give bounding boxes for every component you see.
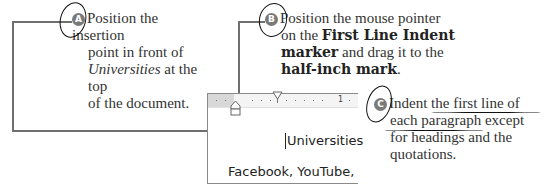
document-preview: 1 Universities Facebook, YouTube,	[207, 93, 358, 184]
ruler-tick	[216, 100, 217, 101]
ruler-tick	[270, 100, 271, 101]
handwritten-underline-each-paragraph	[384, 130, 484, 131]
insertion-cursor	[285, 133, 286, 149]
ruler-tick	[252, 100, 253, 101]
ruler-tick	[295, 100, 296, 101]
callout-a-line-2: point in front of	[72, 44, 212, 61]
ruler-tick	[349, 100, 350, 101]
ruler-tick	[313, 100, 314, 101]
callout-a-line-1: APosition the insertion	[72, 10, 212, 44]
ruler-number: 1	[338, 95, 343, 104]
document-line-facebook: Facebook, YouTube,	[228, 164, 354, 179]
ruler-tick	[261, 100, 262, 101]
callout-b-line-1: BPosition the mouse pointer	[265, 10, 465, 27]
callout-b-line-2: on the First Line Indent	[265, 27, 465, 44]
ruler-tick	[225, 100, 226, 101]
leader-line-b-vertical	[238, 21, 240, 99]
ruler-tick	[322, 100, 323, 101]
callout-a: APosition the insertion point in front o…	[72, 10, 212, 112]
callout-b-line-3: marker and drag it to the	[265, 44, 465, 61]
callout-c-line-1: CIndent the first line of	[374, 95, 544, 112]
callout-b: BPosition the mouse pointer on the First…	[265, 10, 465, 78]
handwritten-underline-first-line	[431, 112, 541, 113]
document-line-universities: Universities	[287, 133, 363, 148]
callout-c: CIndent the first line of each paragraph…	[374, 95, 544, 163]
callout-a-line-3: Universities at the top	[72, 61, 212, 95]
hanging-indent-marker-icon[interactable]	[230, 100, 241, 116]
callout-c-line-3: for headings and the	[374, 129, 544, 146]
callout-c-line-2: each paragraph except	[374, 112, 544, 129]
leader-line-a-vertical	[12, 21, 14, 131]
callout-b-line-4: half-inch mark.	[265, 61, 465, 78]
first-line-indent-marker-icon[interactable]	[272, 91, 283, 101]
callout-a-line-4: of the document.	[72, 95, 212, 112]
ruler-tick	[304, 100, 305, 101]
callout-c-line-4: quotations.	[374, 146, 544, 163]
ruler-tick	[286, 100, 287, 101]
